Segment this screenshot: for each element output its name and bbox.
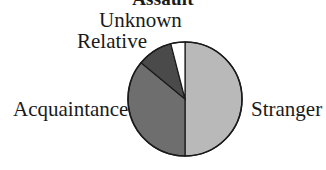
label-acquaintance: Acquaintance — [13, 99, 128, 120]
label-unknown: Unknown — [99, 10, 182, 31]
label-stranger: Stranger — [251, 99, 322, 120]
label-relative: Relative — [77, 31, 147, 52]
pie-chart: Assault Unknown Relative Acquaintance St… — [0, 0, 326, 170]
slice-stranger — [185, 42, 242, 156]
